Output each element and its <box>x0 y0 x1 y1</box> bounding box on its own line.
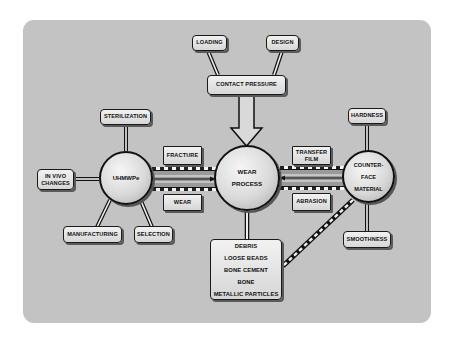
uhmwpe-label: UHMWPe <box>113 172 140 184</box>
in-vivo-label-line1: IN VIVO <box>45 173 66 180</box>
wear-process-node: WEAR PROCESS <box>214 145 280 211</box>
debris-node: DEBRIS LOOSE BEADS BONE CEMENT BONE META… <box>210 239 282 300</box>
fracture-node: FRACTURE <box>163 146 202 165</box>
left-pipe <box>150 167 218 191</box>
debris-item: BONE <box>237 276 254 288</box>
design-node: DESIGN <box>266 35 299 51</box>
wear-label: WEAR <box>174 199 192 206</box>
counterface-label-line2: FACE <box>361 171 376 183</box>
uhmwpe-node: UHMWPe <box>99 151 153 205</box>
contact-pressure-label: CONTACT PRESSURE <box>216 81 277 88</box>
connector-manufacturing <box>97 200 110 227</box>
debris-item: BONE CEMENT <box>224 264 268 276</box>
loading-node: LOADING <box>192 35 227 51</box>
selection-node: SELECTION <box>134 226 173 243</box>
counterface-material-node: COUNTER- FACE MATERIAL <box>342 150 395 203</box>
in-vivo-label-line2: CHANGES <box>41 180 70 187</box>
wear-process-label-line1: WEAR <box>238 166 257 178</box>
abrasion-label: ABRASION <box>296 198 327 205</box>
right-pipe <box>277 166 344 190</box>
connector-selection <box>141 201 152 227</box>
manufacturing-label: MANUFACTURING <box>67 231 118 238</box>
counterface-label-line3: MATERIAL <box>354 183 382 195</box>
wear-node: WEAR <box>163 194 202 211</box>
hardness-label: HARDNESS <box>351 112 383 119</box>
loading-label: LOADING <box>196 39 223 46</box>
counterface-label-line1: COUNTER- <box>354 159 384 171</box>
contact-pressure-node: CONTACT PRESSURE <box>207 75 286 95</box>
in-vivo-changes-node: IN VIVO CHANGES <box>37 169 74 190</box>
design-label: DESIGN <box>271 39 293 46</box>
selection-label: SELECTION <box>137 231 170 238</box>
smoothness-label: SMOOTHNESS <box>347 236 388 243</box>
connector-loading <box>208 51 218 75</box>
hardness-node: HARDNESS <box>348 108 386 124</box>
connector-design <box>274 51 282 75</box>
debris-item: METALLIC PARTICLES <box>214 288 279 300</box>
transfer-film-label-line2: FILM <box>305 156 318 163</box>
sterilization-node: STERILIZATION <box>100 109 151 125</box>
manufacturing-node: MANUFACTURING <box>63 226 122 243</box>
fracture-label: FRACTURE <box>167 152 199 159</box>
debris-item: DEBRIS <box>235 240 258 252</box>
abrasion-node: ABRASION <box>292 193 331 211</box>
smoothness-node: SMOOTHNESS <box>343 231 391 248</box>
wear-process-label-line2: PROCESS <box>232 178 262 190</box>
sterilization-label: STERILIZATION <box>104 113 147 120</box>
transfer-film-label-line1: TRANSFER <box>296 149 327 156</box>
pressure-arrow <box>231 95 262 146</box>
transfer-film-node: TRANSFER FILM <box>292 146 331 165</box>
debris-item: LOOSE BEADS <box>224 252 267 264</box>
